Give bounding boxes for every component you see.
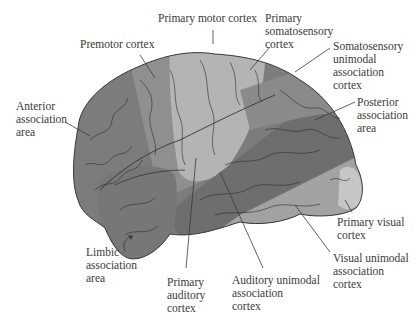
leader-somatosensory-unimodal: [295, 48, 330, 72]
label-primary-motor-cortex: Primary motor cortex: [158, 12, 257, 25]
label-anterior-association-area: Anterior association area: [16, 100, 67, 139]
label-somatosensory-unimodal-association-cortex: Somatosensory unimodal association corte…: [333, 40, 403, 92]
label-primary-visual-cortex: Primary visual cortex: [337, 216, 404, 242]
label-limbic-association-area: Limbic association area: [86, 246, 137, 285]
brain-diagram: Primary motor cortex Primary somatosenso…: [0, 0, 419, 322]
label-primary-auditory-cortex: Primary auditory cortex: [167, 276, 205, 315]
label-premotor-cortex: Premotor cortex: [80, 38, 154, 51]
label-primary-somatosensory-cortex: Primary somatosensory cortex: [265, 12, 333, 51]
label-visual-unimodal-association-cortex: Visual unimodal association cortex: [333, 252, 409, 291]
label-auditory-unimodal-association-cortex: Auditory unimodal association cortex: [232, 274, 320, 313]
label-posterior-association-area: Posterior association area: [357, 96, 408, 135]
